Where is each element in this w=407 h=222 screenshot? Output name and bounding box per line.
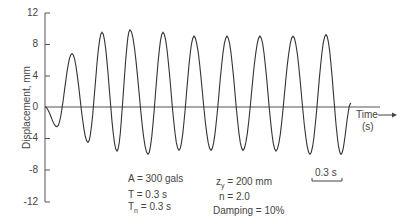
time-arrow-icon <box>378 113 397 118</box>
annotation-yield-displacement: zy = 200 mm <box>216 176 272 192</box>
y-tick-12: 12 <box>16 8 38 18</box>
annotation-damping: Damping = 10% <box>213 205 284 217</box>
y-tick-neg12: -12 <box>16 197 38 207</box>
y-tick-8: 8 <box>16 39 38 49</box>
y-tick-0: 0 <box>16 102 38 112</box>
annotation-n: n = 2.0 <box>219 191 250 203</box>
y-tick-neg4: -4 <box>16 133 38 143</box>
annotation-amplitude: A = 300 gals <box>128 173 183 185</box>
scale-bar-label: 0.3 s <box>315 167 337 179</box>
x-axis-label-time: Time <box>356 109 378 121</box>
y-tick-neg8: -8 <box>16 165 38 175</box>
annotation-natural-period: Tn = 0.3 s <box>128 201 171 217</box>
displacement-curve <box>45 30 351 155</box>
y-tick-4: 4 <box>16 71 38 81</box>
x-axis-label-unit: (s) <box>362 121 374 133</box>
displacement-chart <box>0 0 407 222</box>
annotation-period: T = 0.3 s <box>128 189 167 201</box>
